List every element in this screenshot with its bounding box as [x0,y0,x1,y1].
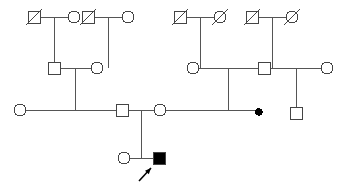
individual-female [154,104,166,116]
female-circle-symbol [118,152,130,164]
pedigree-canvas [0,0,344,186]
male-square-symbol [258,62,270,74]
individual-female [321,62,333,74]
individual-female [118,152,130,164]
individual-male [290,107,302,119]
individual-miscarriage [256,109,262,115]
individual-female [68,11,80,23]
individual-female [91,62,103,74]
male-square-symbol [116,104,128,116]
female-circle-symbol [68,11,80,23]
individual-male [48,62,60,74]
female-circle-symbol [321,62,333,74]
individual-deceased-male [26,9,42,25]
individual-deceased-male [80,9,96,25]
individual-deceased-male [244,9,260,25]
female-circle-symbol [187,62,199,74]
individual-female [187,62,199,74]
female-circle-symbol [14,104,26,116]
male-square-symbol [290,107,302,119]
chart-background [0,0,344,186]
male-square-symbol [153,152,165,164]
female-circle-symbol [154,104,166,116]
female-circle-symbol [122,11,134,23]
male-square-symbol [48,62,60,74]
individual-deceased-male [172,9,188,25]
individual-affected-male-proband [153,152,165,164]
pedigree-chart [0,0,344,186]
individual-male [258,62,270,74]
individual-female [122,11,134,23]
individual-male [116,104,128,116]
individual-female [14,104,26,116]
miscarriage-dot-symbol [256,109,262,115]
female-circle-symbol [91,62,103,74]
